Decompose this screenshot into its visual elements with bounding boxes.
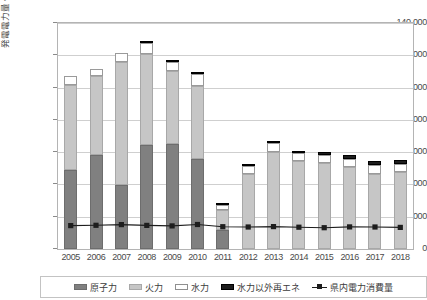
chart-title <box>0 0 427 3</box>
legend-item-label: 原子力 <box>90 281 117 294</box>
legend-item-label: 水力以外再エネ <box>237 281 300 294</box>
legend-line-marker <box>312 284 327 291</box>
legend-swatch-hydro <box>175 284 188 290</box>
consumption-line-marker[interactable] <box>347 224 352 229</box>
legend-swatch-nuclear <box>74 284 87 290</box>
legend-item[interactable]: 県内電力消費量 <box>312 281 393 294</box>
consumption-line-marker[interactable] <box>220 224 225 229</box>
consumption-line-marker[interactable] <box>144 223 149 228</box>
consumption-line-marker[interactable] <box>119 222 124 227</box>
consumption-line-marker[interactable] <box>195 222 200 227</box>
legend-item-label: 水力 <box>191 281 209 294</box>
chart-legend: 原子力火力水力水力以外再エネ県内電力消費量 <box>40 276 427 298</box>
plot-area <box>57 22 414 250</box>
consumption-line-marker[interactable] <box>246 224 251 229</box>
consumption-line-marker[interactable] <box>271 224 276 229</box>
consumption-line-marker[interactable] <box>296 225 301 230</box>
legend-item[interactable]: 水力 <box>175 281 209 294</box>
legend-item-label: 火力 <box>145 281 163 294</box>
consumption-line-marker[interactable] <box>398 225 403 230</box>
consumption-line-marker[interactable] <box>93 223 98 228</box>
consumption-line-marker[interactable] <box>170 223 175 228</box>
legend-item[interactable]: 原子力 <box>74 281 117 294</box>
y-axis-title: 発電電力量・電力消費量[百万kWh] <box>0 0 10 60</box>
legend-item[interactable]: 水力以外再エネ <box>221 281 300 294</box>
consumption-line-marker[interactable] <box>372 224 377 229</box>
legend-items: 原子力火力水力水力以外再エネ県内電力消費量 <box>74 281 393 294</box>
consumption-line-marker[interactable] <box>322 225 327 230</box>
legend-item[interactable]: 火力 <box>129 281 163 294</box>
legend-swatch-thermal <box>129 284 142 290</box>
consumption-line-marker[interactable] <box>68 223 73 228</box>
legend-swatch-renewable <box>221 284 234 290</box>
x-axis-tick-label: 2018 <box>385 252 415 262</box>
legend-item-label: 県内電力消費量 <box>330 281 393 294</box>
chart-container: 発電電力量・電力消費量[百万kWh] 020,00040,00060,00080… <box>0 0 427 300</box>
consumption-line-series <box>58 23 415 251</box>
